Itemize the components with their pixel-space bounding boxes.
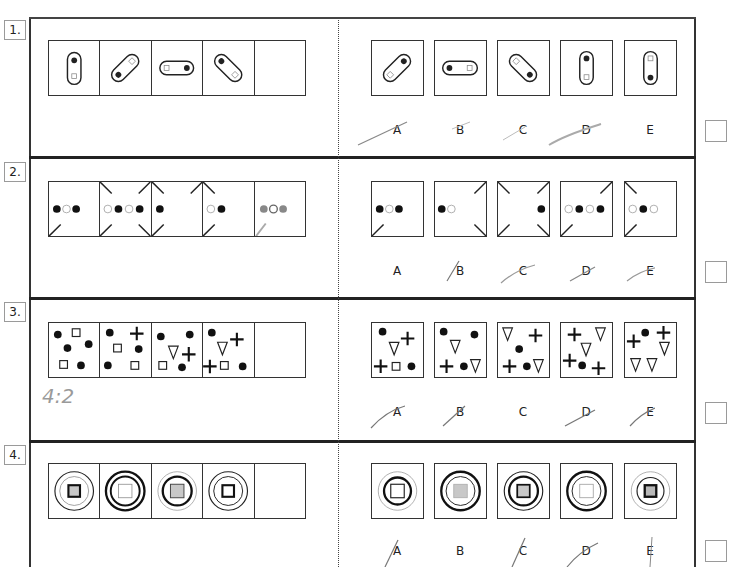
option-label: E <box>640 405 660 419</box>
question-number-3: 3. <box>4 302 26 322</box>
dots-corners-icon <box>203 182 253 236</box>
option-label: A <box>387 544 407 558</box>
option-label: A <box>387 405 407 419</box>
option-q1-d[interactable] <box>560 40 613 96</box>
handwritten-note: 4:2 <box>42 384 74 408</box>
frame-top-border <box>29 17 696 19</box>
sequence-cell <box>49 323 100 377</box>
dots-corners-icon <box>152 182 202 236</box>
option-label: E <box>640 264 660 278</box>
rings-square-icon <box>152 464 202 518</box>
shapes-set-icon <box>435 323 486 377</box>
dots-corners-icon <box>100 182 150 236</box>
sequence-strip-q3 <box>48 322 306 378</box>
column-divider <box>338 18 339 567</box>
shapes-set-icon <box>372 323 423 377</box>
sequence-cell <box>152 323 203 377</box>
option-q1-b[interactable] <box>434 40 487 96</box>
option-q2-b[interactable] <box>434 181 487 237</box>
option-label: B <box>450 264 470 278</box>
rings-square-icon <box>561 464 612 518</box>
capsule-diagonal-icon <box>498 41 549 95</box>
option-q2-a[interactable] <box>371 181 424 237</box>
pencil-dots-icon <box>255 182 305 236</box>
sequence-strip-q4 <box>48 463 306 519</box>
option-q2-e[interactable] <box>624 181 677 237</box>
sequence-cell <box>152 464 203 518</box>
row-divider-3-4 <box>29 440 696 443</box>
option-q4-a[interactable] <box>371 463 424 519</box>
answer-box-q1[interactable] <box>705 120 727 142</box>
rings-square-icon <box>100 464 150 518</box>
option-label: E <box>640 544 660 558</box>
option-label: C <box>513 405 533 419</box>
sequence-cell <box>152 41 203 95</box>
rings-square-icon <box>625 464 676 518</box>
sequence-cell <box>152 182 203 236</box>
dots-corners-icon <box>625 182 676 236</box>
answer-box-q4[interactable] <box>705 540 727 562</box>
option-label: D <box>576 264 596 278</box>
option-q3-b[interactable] <box>434 322 487 378</box>
option-q4-d[interactable] <box>560 463 613 519</box>
option-q2-d[interactable] <box>560 181 613 237</box>
option-label: B <box>450 405 470 419</box>
shapes-set-icon <box>561 323 612 377</box>
capsule-vertical-icon <box>561 41 612 95</box>
option-q3-d[interactable] <box>560 322 613 378</box>
option-label: A <box>387 264 407 278</box>
sequence-cell <box>49 182 100 236</box>
row-divider-2-3 <box>29 297 696 300</box>
sequence-cell-blank <box>255 464 305 518</box>
rings-square-icon <box>49 464 99 518</box>
rings-square-icon <box>372 464 423 518</box>
sequence-cell-pencil-answer <box>255 182 305 236</box>
sequence-cell <box>49 41 100 95</box>
sequence-cell <box>49 464 100 518</box>
sequence-cell <box>203 464 254 518</box>
option-label: C <box>513 264 533 278</box>
sequence-strip-q2 <box>48 181 306 237</box>
option-q1-c[interactable] <box>497 40 550 96</box>
shapes-set-icon <box>625 323 676 377</box>
shapes-set-icon <box>49 323 99 377</box>
row-divider-1-2 <box>29 156 696 159</box>
sequence-cell <box>100 41 151 95</box>
shapes-set-icon <box>203 323 253 377</box>
option-label: D <box>576 544 596 558</box>
capsule-diagonal-icon <box>372 41 423 95</box>
sequence-cell-blank <box>255 41 305 95</box>
capsule-horizontal-icon <box>152 41 202 95</box>
option-label: B <box>450 544 470 558</box>
option-q4-e[interactable] <box>624 463 677 519</box>
option-label: B <box>450 123 470 137</box>
capsule-vertical-icon <box>49 41 99 95</box>
capsule-horizontal-icon <box>435 41 486 95</box>
option-label: D <box>576 123 596 137</box>
option-label: A <box>387 123 407 137</box>
capsule-diagonal-icon <box>100 41 150 95</box>
rings-square-icon <box>498 464 549 518</box>
option-q1-e[interactable] <box>624 40 677 96</box>
question-number-1: 1. <box>4 20 26 40</box>
option-q3-a[interactable] <box>371 322 424 378</box>
shapes-set-icon <box>100 323 150 377</box>
rings-square-icon <box>435 464 486 518</box>
dots-corners-icon <box>372 182 423 236</box>
option-q3-c[interactable] <box>497 322 550 378</box>
dots-corners-icon <box>49 182 99 236</box>
answer-box-q2[interactable] <box>705 261 727 283</box>
answer-box-q3[interactable] <box>705 402 727 424</box>
option-label: D <box>576 405 596 419</box>
capsule-diagonal-icon <box>203 41 253 95</box>
option-q3-e[interactable] <box>624 322 677 378</box>
question-number-4: 4. <box>4 445 26 465</box>
option-q1-a[interactable] <box>371 40 424 96</box>
option-label: C <box>513 544 533 558</box>
option-q4-b[interactable] <box>434 463 487 519</box>
shapes-set-icon <box>498 323 549 377</box>
option-label: C <box>513 123 533 137</box>
sequence-cell-blank <box>255 323 305 377</box>
option-q2-c[interactable] <box>497 181 550 237</box>
option-q4-c[interactable] <box>497 463 550 519</box>
